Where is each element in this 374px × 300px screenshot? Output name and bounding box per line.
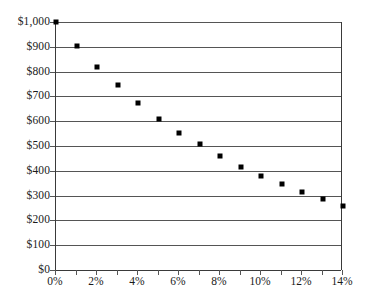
chart-container: $1,000$900$800$700$600$500$400$300$200$1… [0,0,374,300]
y-axis-label: $0 [0,264,50,276]
data-point [218,154,223,159]
gridline [56,72,341,73]
data-point [177,130,182,135]
y-axis-label: $300 [0,190,50,202]
x-axis-tick [199,270,200,275]
data-point [238,164,243,169]
data-point [74,43,79,48]
x-axis-label: 2% [74,276,118,288]
y-axis-label: $400 [0,165,50,177]
x-axis-tick [117,270,118,275]
gridline [56,171,341,172]
data-point [300,189,305,194]
x-axis-label: 0% [33,276,77,288]
data-point [279,182,284,187]
plot-area [55,22,342,270]
y-axis-label: $600 [0,115,50,127]
gridline [56,47,341,48]
gridline [56,121,341,122]
x-axis-label: 12% [279,276,323,288]
x-axis-label: 14% [320,276,364,288]
data-point [197,142,202,147]
data-point [320,196,325,201]
gridline [56,196,341,197]
x-axis-tick [158,270,159,275]
y-axis-label: $200 [0,214,50,226]
x-axis-tick [76,270,77,275]
x-axis-tick [281,270,282,275]
x-axis-label: 8% [197,276,241,288]
y-axis-label: $100 [0,239,50,251]
gridline [56,245,341,246]
x-axis-label: 10% [238,276,282,288]
data-point [54,20,59,25]
y-axis-label: $900 [0,41,50,53]
data-point [136,100,141,105]
data-point [259,174,264,179]
data-point [156,116,161,121]
data-point [341,204,346,209]
x-axis-label: 4% [115,276,159,288]
x-axis-tick [240,270,241,275]
gridline [56,96,341,97]
y-axis-label: $800 [0,66,50,78]
gridline [56,22,341,23]
data-point [95,64,100,69]
y-axis-label: $1,000 [0,16,50,28]
x-axis-tick [322,270,323,275]
gridline [56,220,341,221]
data-point [115,83,120,88]
y-axis-label: $500 [0,140,50,152]
x-axis-label: 6% [156,276,200,288]
y-axis-label: $700 [0,90,50,102]
